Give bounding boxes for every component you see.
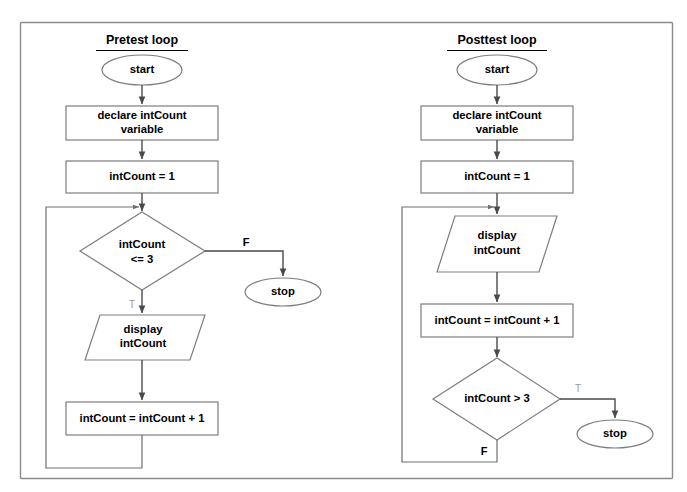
pretest-increment-label: intCount = intCount + 1 [80,412,205,424]
posttest-true-branch-label: T [575,383,581,394]
pretest-title: Pretest loop [106,33,179,47]
pretest-declare-label-line2: variable [121,123,164,135]
posttest-display-label-line1: display [478,229,518,241]
posttest-start-label: start [485,63,510,75]
pretest-true-branch-label: T [129,299,135,310]
pretest-display-label-line2: intCount [120,337,167,349]
posttest-stop-label: stop [603,427,627,439]
pretest-stop-label: stop [271,285,295,297]
posttest-decision-label: intCount > 3 [464,392,530,404]
posttest-title: Posttest loop [457,33,537,47]
posttest-declare-label-line2: variable [476,123,519,135]
pretest-decision-label-line2: <= 3 [131,253,154,265]
pretest-decision-label-line1: intCount [119,238,166,250]
pretest-false-branch-label: F [243,236,250,248]
posttest-display-label-line2: intCount [474,244,521,256]
flowchart-canvas: Pretest loop start declare intCount vari… [0,0,687,492]
posttest-init-label: intCount = 1 [464,170,530,182]
posttest-false-branch-label: F [481,445,488,457]
pretest-init-label: intCount = 1 [109,170,175,182]
posttest-declare-label-line1: declare intCount [452,109,541,121]
pretest-start-label: start [130,63,155,75]
pretest-display-label-line1: display [124,323,164,335]
posttest-increment-label: intCount = intCount + 1 [435,314,560,326]
pretest-declare-label-line1: declare intCount [97,109,186,121]
